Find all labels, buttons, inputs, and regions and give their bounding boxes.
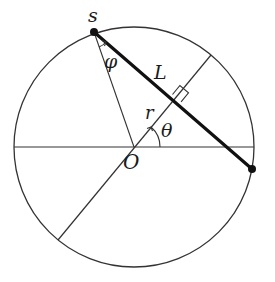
circle-chord-diagram: [0, 0, 275, 282]
point-s-dot: [90, 28, 98, 36]
label-phi: φ: [104, 52, 117, 71]
label-r: r: [145, 104, 154, 122]
label-o: O: [123, 152, 139, 172]
label-s: s: [88, 6, 98, 25]
label-l: L: [154, 63, 167, 82]
chord-end-dot: [248, 165, 256, 173]
label-theta: θ: [161, 121, 172, 140]
